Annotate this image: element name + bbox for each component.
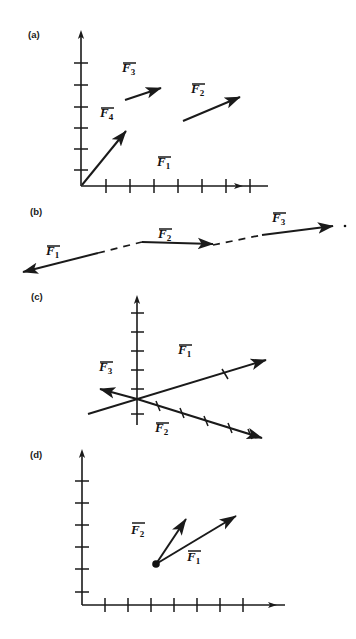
panel-c-label: (c): [31, 291, 43, 302]
force-vector-figure: (a): [0, 0, 356, 639]
panel-c-axes: [131, 295, 144, 425]
dashed-connector-1: [98, 242, 142, 253]
vector-f2-label-d: F2: [130, 522, 145, 539]
vector-f2-panel-b: F2: [142, 226, 213, 244]
panel-d-axes: [75, 449, 285, 612]
panel-b-label: (b): [30, 206, 42, 217]
vector-f3-panel-c: F3: [98, 359, 137, 399]
vector-f1-panel-c: F1: [88, 342, 266, 414]
vector-f4-panel-a: F4: [82, 105, 126, 185]
line-end-dot: [344, 225, 347, 228]
vector-f1-panel-a: F1: [156, 154, 171, 171]
panel-b: (b) F1 F2 F3: [23, 206, 346, 272]
dashed-connector-2: [213, 235, 262, 245]
vector-f2-panel-d: F2: [130, 519, 186, 564]
vector-f3-panel-b: F3: [262, 210, 333, 235]
vector-f2-panel-a: F2: [183, 81, 240, 121]
vector-f1-panel-d: F1: [156, 516, 236, 566]
vector-f2-panel-c: F2: [137, 399, 262, 439]
panel-a: (a): [28, 29, 268, 193]
vector-f3-panel-a: F3: [121, 60, 161, 100]
vector-origin-dot: [152, 560, 160, 568]
vector-f1-panel-b: F1: [23, 243, 98, 272]
panel-d-label: (d): [30, 449, 42, 460]
panel-c: (c) F1: [31, 291, 266, 439]
panel-a-label: (a): [28, 29, 40, 40]
panel-d: (d): [30, 449, 285, 612]
